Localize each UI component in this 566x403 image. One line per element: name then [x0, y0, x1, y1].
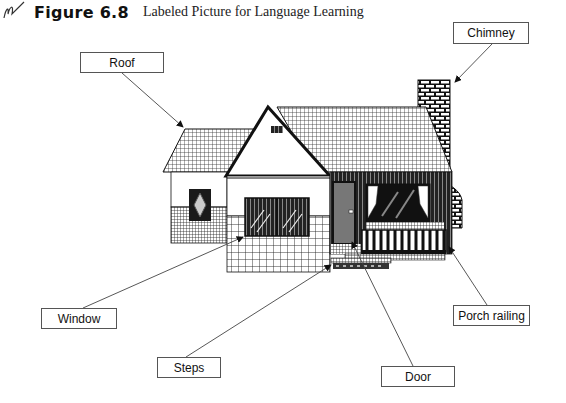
label-door: Door — [381, 366, 455, 387]
label-steps: Steps — [157, 357, 221, 378]
label-chimney: Chimney — [453, 22, 529, 44]
figure-number: Figure 6.8 — [34, 3, 129, 22]
front-window — [245, 198, 309, 236]
label-porch-railing: Porch railing — [453, 305, 530, 326]
window-leader — [83, 237, 243, 308]
steps-leader — [186, 265, 331, 357]
label-roof: Roof — [80, 52, 164, 73]
figure-title: Labeled Picture for Language Learning — [143, 4, 364, 20]
porch-railing-drawing — [362, 230, 446, 254]
figure-caption: Figure 6.8 Labeled Picture for Language … — [6, 0, 364, 24]
attic-vent — [271, 126, 283, 133]
label-window: Window — [41, 308, 117, 329]
porch-railing-leader — [449, 247, 487, 305]
roof-leader — [122, 73, 183, 127]
chimney-leader — [455, 44, 492, 82]
